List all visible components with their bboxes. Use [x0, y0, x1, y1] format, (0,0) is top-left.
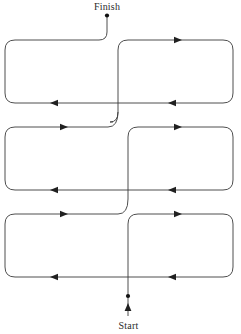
start-point-dot — [126, 294, 130, 298]
row3-left-loop-wire — [5, 199, 128, 277]
start-label: Start — [0, 321, 241, 331]
serpentine-path-diagram: Finish Start — [0, 0, 241, 334]
row1-left-loop-wire — [5, 16, 113, 103]
arrow-row1-right-bottom-icon — [168, 100, 176, 106]
arrow-row2-right-top-icon — [174, 124, 182, 130]
arrow-row1-right-top-icon — [174, 37, 182, 43]
arrow-row2-left-top-icon — [60, 124, 68, 130]
arrow-row2-left-bottom-icon — [50, 187, 58, 193]
row1-right-loop-wire — [110, 40, 233, 122]
finish-point-dot — [105, 13, 109, 17]
arrow-row3-right-bottom-icon — [168, 274, 176, 280]
arrow-start-stem-up-icon — [125, 303, 132, 311]
arrow-row3-right-top-icon — [174, 211, 182, 217]
arrow-row1-left-bottom-icon — [50, 100, 58, 106]
arrow-row3-left-top-icon — [60, 211, 68, 217]
arrow-row3-left-bottom-icon — [50, 274, 58, 280]
row2-left-loop-wire — [5, 112, 118, 190]
row3-right-loop-wire — [113, 214, 233, 296]
finish-label: Finish — [0, 2, 214, 12]
arrow-row2-right-bottom-icon — [168, 187, 176, 193]
path-svg — [0, 0, 241, 334]
